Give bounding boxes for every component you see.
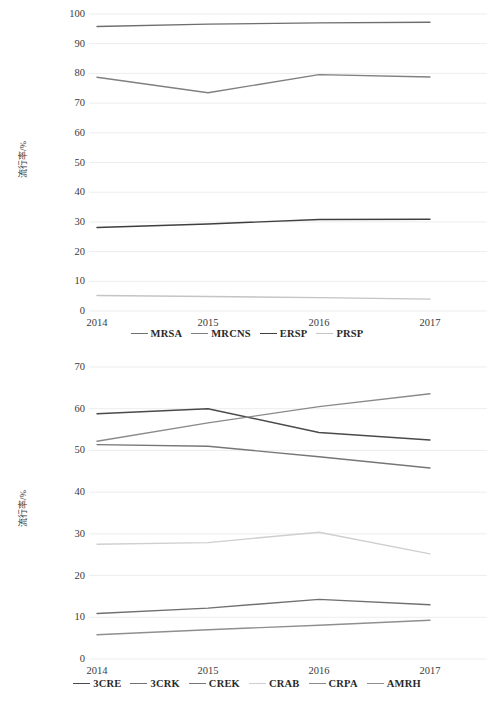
- y-tick-label: 70: [51, 98, 85, 108]
- legend-item-prsp[interactable]: PRSP: [316, 328, 363, 339]
- legend-swatch-mrcns: [191, 333, 208, 334]
- x-tick-label: 2014: [72, 317, 122, 328]
- legend-swatch-crpa: [309, 683, 326, 684]
- legend-label: 3CRE: [93, 678, 121, 689]
- x-tick-label: 2017: [405, 317, 455, 328]
- y-tick-label: 70: [51, 362, 85, 372]
- y-tick-label: 0: [51, 306, 85, 316]
- chart-top-amr-gram-positive: 流行率/% 0102030405060708090100 20142015201…: [0, 0, 494, 352]
- y-tick-label: 40: [51, 187, 85, 197]
- y-axis-label-bottom: 流行率/%: [16, 490, 29, 527]
- legend-label: CRAB: [269, 678, 300, 689]
- series-line-amrh: [97, 620, 430, 635]
- y-tick-label: 30: [51, 529, 85, 539]
- legend-item-3cre[interactable]: 3CRE: [73, 678, 121, 689]
- legend-item-3crk[interactable]: 3CRK: [130, 678, 179, 689]
- legend-item-mrsa[interactable]: MRSA: [131, 328, 183, 339]
- legend-label: ERSP: [280, 328, 308, 339]
- legend-label: CRPA: [329, 678, 358, 689]
- legend-swatch-3cre: [73, 683, 90, 684]
- y-tick-label: 80: [51, 68, 85, 78]
- legend-item-ersp[interactable]: ERSP: [260, 328, 308, 339]
- y-tick-label: 20: [51, 247, 85, 257]
- legend-swatch-amrh: [367, 683, 384, 684]
- legend-label: MRCNS: [211, 328, 251, 339]
- legend-item-amrh[interactable]: AMRH: [367, 678, 421, 689]
- legend-swatch-crek: [189, 683, 206, 684]
- y-tick-label: 90: [51, 39, 85, 49]
- series-line-crpa: [97, 394, 430, 442]
- x-tick-label: 2017: [405, 665, 455, 676]
- series-line-mrsa: [97, 22, 430, 26]
- legend-label: MRSA: [151, 328, 183, 339]
- legend-swatch-3crk: [130, 683, 147, 684]
- y-axis-label-top: 流行率/%: [16, 141, 29, 178]
- y-tick-label: 50: [51, 445, 85, 455]
- legend-item-mrcns[interactable]: MRCNS: [191, 328, 251, 339]
- x-tick-label: 2015: [183, 317, 233, 328]
- legend-swatch-crab: [249, 683, 266, 684]
- series-line-mrcns: [97, 75, 430, 93]
- x-tick-label: 2015: [183, 665, 233, 676]
- y-tick-label: 0: [51, 654, 85, 664]
- legend-swatch-mrsa: [131, 333, 148, 334]
- series-line-prsp: [97, 296, 430, 300]
- y-tick-label: 40: [51, 487, 85, 497]
- y-tick-label: 50: [51, 158, 85, 168]
- legend-bottom: 3CRE3CRKCREKCRABCRPAAMRH: [0, 678, 494, 689]
- legend-label: PRSP: [336, 328, 363, 339]
- legend-item-crab[interactable]: CRAB: [249, 678, 300, 689]
- y-tick-label: 60: [51, 404, 85, 414]
- y-tick-label: 60: [51, 128, 85, 138]
- series-line-crab: [97, 532, 430, 554]
- y-tick-label: 10: [51, 276, 85, 286]
- y-tick-label: 10: [51, 612, 85, 622]
- series-line-crek: [97, 445, 430, 468]
- legend-label: 3CRK: [150, 678, 179, 689]
- legend-top: MRSAMRCNSERSPPRSP: [0, 328, 494, 339]
- x-tick-label: 2016: [294, 665, 344, 676]
- chart-bottom-amr-gram-negative: 流行率/% 010203040506070 2014201520162017 3…: [0, 352, 494, 703]
- legend-swatch-prsp: [316, 333, 333, 334]
- series-line-ersp: [97, 219, 430, 227]
- legend-label: CREK: [209, 678, 240, 689]
- series-line-3cre: [97, 409, 430, 440]
- line-chart-svg-bottom: [0, 352, 494, 672]
- legend-item-crpa[interactable]: CRPA: [309, 678, 358, 689]
- legend-label: AMRH: [387, 678, 421, 689]
- legend-item-crek[interactable]: CREK: [189, 678, 240, 689]
- series-line-3crk: [97, 599, 430, 613]
- x-tick-label: 2016: [294, 317, 344, 328]
- legend-swatch-ersp: [260, 333, 277, 334]
- y-tick-label: 30: [51, 217, 85, 227]
- plot-area-top: [0, 0, 494, 352]
- x-tick-label: 2014: [72, 665, 122, 676]
- y-tick-label: 100: [51, 9, 85, 19]
- y-tick-label: 20: [51, 571, 85, 581]
